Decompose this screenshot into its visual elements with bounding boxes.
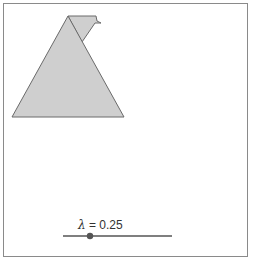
equals-sign: = [86, 218, 100, 232]
lambda-symbol: λ [78, 218, 86, 232]
slider-knob[interactable] [87, 233, 93, 239]
canvas-border [4, 4, 248, 257]
slider-value: 0.25 [99, 218, 122, 232]
geometry-canvas [0, 0, 255, 270]
slider-label: λ = 0.25 [78, 218, 123, 232]
